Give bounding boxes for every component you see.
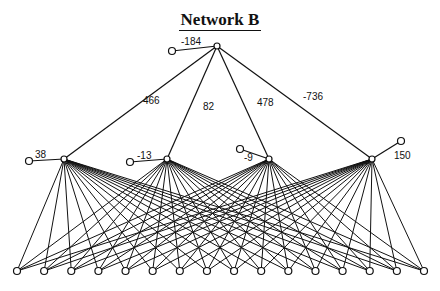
input-node (122, 268, 129, 275)
hidden-bias-node (127, 159, 134, 166)
input-node (231, 268, 238, 275)
input-node (41, 268, 48, 275)
input-node (285, 268, 292, 275)
input-hidden-edge (153, 159, 167, 271)
input-hidden-edge (372, 159, 424, 271)
input-hidden-edge (269, 159, 397, 271)
input-node (14, 268, 21, 275)
labels: -18438466-1382-9478150-736 (35, 36, 411, 163)
hidden-output-weight-label: 466 (143, 95, 160, 106)
output-node (214, 43, 220, 49)
nodes (14, 43, 428, 275)
hidden-node (61, 156, 67, 162)
output-bias-label: -184 (181, 36, 201, 47)
hidden-output-weight-label: 478 (257, 97, 274, 108)
input-hidden-edge (167, 159, 424, 271)
input-node (339, 268, 346, 275)
input-hidden-edge (167, 159, 397, 271)
input-hidden-edge (17, 159, 64, 271)
network-diagram: -18438466-1382-9478150-736 (0, 0, 440, 291)
input-node (68, 268, 75, 275)
hidden-bias-node (26, 158, 33, 165)
hidden-node (266, 156, 272, 162)
input-node (421, 268, 428, 275)
input-node (258, 268, 265, 275)
output-bias-node (169, 48, 176, 55)
edges (17, 46, 424, 271)
input-node (95, 268, 102, 275)
hidden-output-edge (64, 46, 217, 159)
input-node (149, 268, 156, 275)
input-node (393, 268, 400, 275)
input-node (176, 268, 183, 275)
input-node (312, 268, 319, 275)
hidden-bias-label: -9 (244, 152, 253, 163)
input-node (203, 268, 210, 275)
input-node (366, 268, 373, 275)
hidden-output-weight-label: 82 (203, 101, 215, 112)
hidden-bias-node (237, 146, 244, 153)
hidden-bias-label: 38 (35, 149, 47, 160)
hidden-bias-node (398, 138, 405, 145)
hidden-output-weight-label: -736 (303, 91, 323, 102)
hidden-bias-label: 150 (394, 150, 411, 161)
hidden-node (164, 156, 170, 162)
hidden-node (369, 156, 375, 162)
hidden-bias-label: -13 (137, 150, 152, 161)
hidden-output-edge (217, 46, 372, 159)
